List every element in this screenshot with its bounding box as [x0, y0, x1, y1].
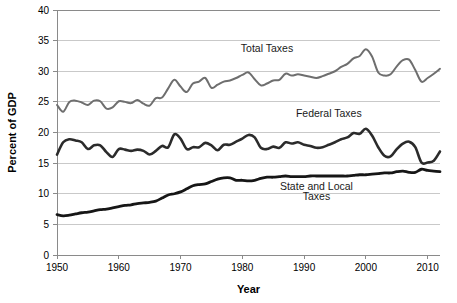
series-annotation-1: Federal Taxes: [296, 107, 362, 119]
y-tick-label-30: 30: [38, 66, 50, 77]
series-line-1: [57, 129, 440, 164]
y-tick-label-25: 25: [38, 96, 50, 107]
x-axis-title: Year: [237, 283, 261, 295]
tax-revenue-line-chart: 0510152025303540195019601970198019902000…: [0, 0, 457, 303]
x-tick-label-1950: 1950: [46, 262, 69, 273]
x-tick-label-2010: 2010: [417, 262, 440, 273]
y-tick-label-10: 10: [38, 188, 50, 199]
x-tick-label-2000: 2000: [355, 262, 378, 273]
x-tick-label-1980: 1980: [231, 262, 254, 273]
x-tick-label-1970: 1970: [169, 262, 192, 273]
x-tick-label-1990: 1990: [293, 262, 316, 273]
y-tick-label-35: 35: [38, 35, 50, 46]
y-axis-title: Percent of GDP: [6, 92, 18, 173]
series-annotation-3: Taxes: [303, 190, 330, 202]
series-line-2: [57, 169, 440, 216]
y-tick-label-15: 15: [38, 158, 50, 169]
chart-container: 0510152025303540195019601970198019902000…: [0, 0, 457, 303]
y-tick-label-0: 0: [43, 250, 49, 261]
y-tick-label-5: 5: [43, 219, 49, 230]
y-tick-label-40: 40: [38, 5, 50, 16]
series-annotation-0: Total Taxes: [241, 42, 293, 54]
y-tick-label-20: 20: [38, 127, 50, 138]
x-tick-label-1960: 1960: [108, 262, 131, 273]
